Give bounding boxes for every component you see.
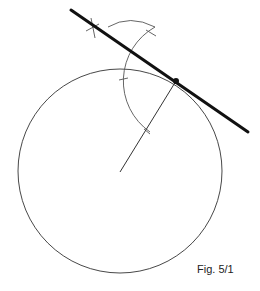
radius-line — [120, 81, 176, 172]
tangent-point — [173, 78, 179, 84]
circle — [18, 69, 222, 273]
tick-mark — [146, 30, 156, 36]
construction-arc-upper — [108, 21, 155, 28]
geometry-figure — [0, 0, 260, 291]
tangent-line — [71, 10, 248, 132]
figure-caption: Fig. 5/1 — [197, 263, 234, 275]
construction-arc — [123, 27, 155, 132]
